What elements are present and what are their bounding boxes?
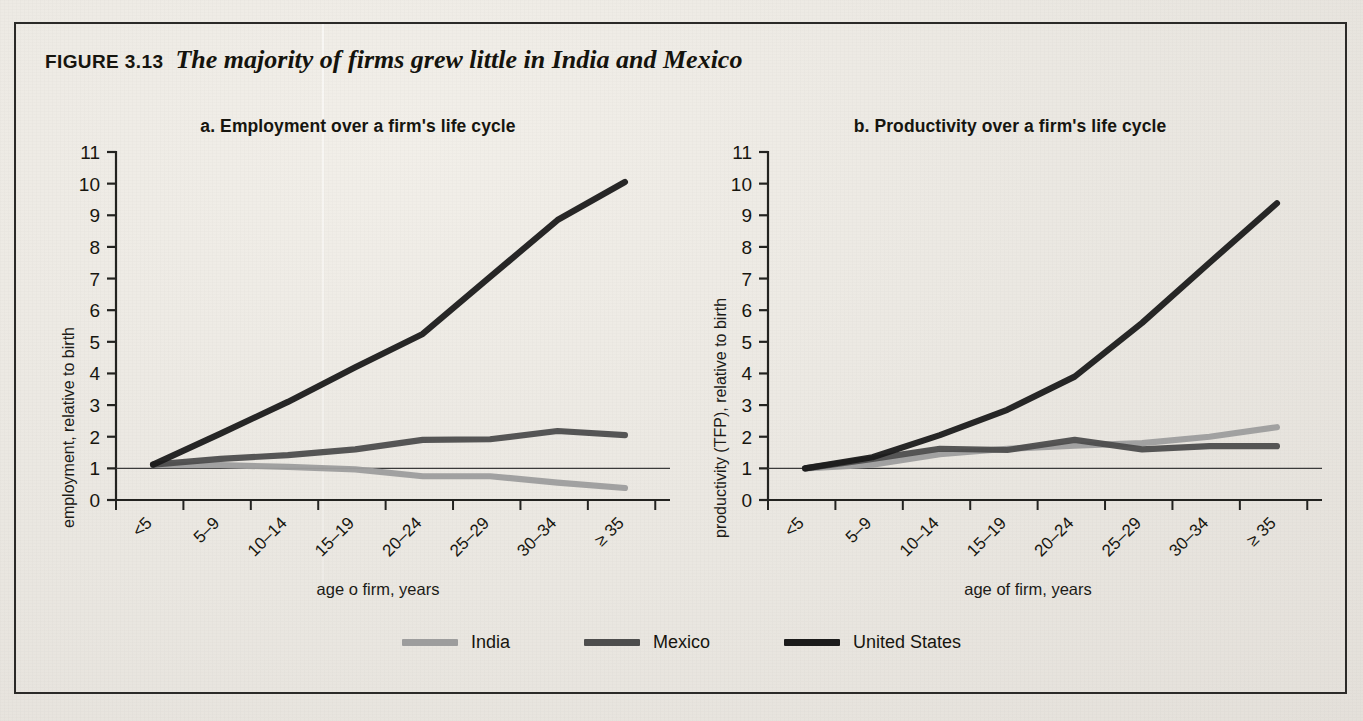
svg-text:15–19: 15–19: [311, 513, 358, 560]
svg-text:3: 3: [89, 395, 100, 416]
legend-item-india: India: [402, 632, 510, 653]
panel-a-title: a.Employment over a firm's life cycle: [38, 116, 678, 137]
svg-text:1: 1: [89, 458, 100, 479]
panel-b-letter: b.: [854, 116, 870, 136]
svg-text:8: 8: [741, 237, 752, 258]
svg-text:7: 7: [741, 269, 752, 290]
svg-text:<5: <5: [781, 513, 808, 540]
svg-text:<5: <5: [129, 513, 156, 540]
panel-a-title-text: Employment over a firm's life cycle: [220, 116, 516, 136]
svg-text:10–14: 10–14: [244, 513, 291, 560]
svg-text:2: 2: [89, 427, 100, 448]
svg-text:11: 11: [732, 142, 752, 163]
legend-label-mexico: Mexico: [653, 632, 710, 653]
svg-text:15–19: 15–19: [963, 513, 1010, 560]
svg-text:10–14: 10–14: [896, 513, 943, 560]
svg-text:30–34: 30–34: [513, 513, 560, 560]
panel-b-x-axis-label: age of firm, years: [690, 580, 1348, 599]
svg-text:9: 9: [89, 205, 100, 226]
svg-text:11: 11: [80, 142, 100, 163]
legend-swatch-united-states: [784, 639, 840, 646]
svg-text:5: 5: [89, 332, 100, 353]
panel-b-plot-area: 01234567891011<55–910–1415–1920–2425–293…: [690, 142, 1330, 562]
svg-text:25–29: 25–29: [446, 513, 493, 560]
svg-text:10: 10: [79, 174, 100, 195]
svg-text:8: 8: [89, 237, 100, 258]
svg-text:30–34: 30–34: [1165, 513, 1212, 560]
legend-label-india: India: [471, 632, 510, 653]
svg-text:10: 10: [731, 174, 752, 195]
svg-text:25–29: 25–29: [1098, 513, 1145, 560]
svg-text:4: 4: [741, 363, 752, 384]
legend-item-united-states: United States: [784, 632, 961, 653]
svg-text:7: 7: [89, 269, 100, 290]
panel-b-chart-svg: 01234567891011<55–910–1415–1920–2425–293…: [690, 142, 1330, 562]
svg-text:20–24: 20–24: [1031, 513, 1078, 560]
svg-text:1: 1: [741, 458, 752, 479]
legend-item-mexico: Mexico: [584, 632, 710, 653]
panel-productivity: b.Productivity over a firm's life cycle …: [690, 108, 1330, 628]
legend-swatch-mexico: [584, 639, 640, 646]
figure-heading: FIGURE 3.13The majority of firms grew li…: [45, 45, 742, 75]
svg-text:4: 4: [89, 363, 100, 384]
panel-a-plot-area: 01234567891011<55–910–1415–1920–2425–293…: [38, 142, 678, 562]
figure-number-label: FIGURE 3.13: [45, 51, 163, 72]
svg-text:9: 9: [741, 205, 752, 226]
svg-text:5–9: 5–9: [190, 513, 223, 546]
svg-text:5–9: 5–9: [842, 513, 875, 546]
legend-swatch-india: [402, 639, 458, 646]
svg-text:3: 3: [741, 395, 752, 416]
svg-text:2: 2: [741, 427, 752, 448]
svg-text:0: 0: [741, 490, 752, 511]
svg-text:≥ 35: ≥ 35: [591, 513, 628, 550]
panel-employment: a.Employment over a firm's life cycle em…: [38, 108, 678, 628]
panel-b-title-text: Productivity over a firm's life cycle: [874, 116, 1166, 136]
panel-b-title: b.Productivity over a firm's life cycle: [690, 116, 1330, 137]
chart-legend: India Mexico United States: [0, 632, 1363, 653]
figure-title: The majority of firms grew little in Ind…: [175, 45, 742, 74]
legend-label-united-states: United States: [853, 632, 961, 653]
svg-text:0: 0: [89, 490, 100, 511]
svg-text:≥ 35: ≥ 35: [1243, 513, 1280, 550]
panel-a-letter: a.: [200, 116, 215, 136]
scanned-page: FIGURE 3.13The majority of firms grew li…: [0, 0, 1363, 721]
panel-a-x-axis-label: age o firm, years: [38, 580, 698, 599]
svg-text:5: 5: [741, 332, 752, 353]
svg-text:6: 6: [741, 300, 752, 321]
svg-text:6: 6: [89, 300, 100, 321]
svg-text:20–24: 20–24: [379, 513, 426, 560]
panel-a-chart-svg: 01234567891011<55–910–1415–1920–2425–293…: [38, 142, 678, 562]
